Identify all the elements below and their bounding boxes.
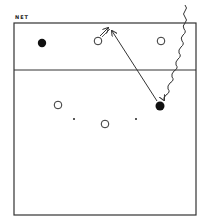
pass-arrow-icon [112, 31, 157, 101]
position-marker [135, 118, 137, 120]
player-filled-front-left [38, 39, 46, 47]
court-boundary [14, 23, 196, 215]
player-open-front-right [157, 37, 165, 45]
player-open-setter [94, 37, 102, 45]
volleyball-court-diagram [0, 0, 211, 221]
position-marker [73, 118, 75, 120]
player-open-back-left [54, 101, 62, 109]
player-filled-back-right [156, 102, 165, 111]
player-open-back-center [101, 120, 109, 128]
serve-trajectory-wavy-icon [164, 5, 187, 100]
